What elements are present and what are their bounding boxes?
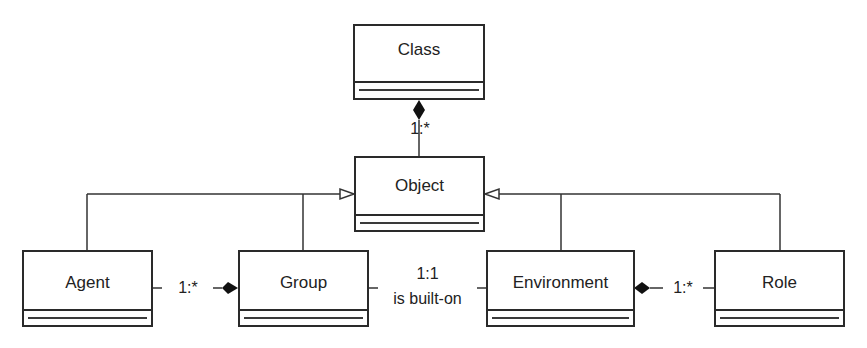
class-box-environment: Environment xyxy=(486,250,635,327)
agent-group-multiplicity: 1:* xyxy=(166,279,210,297)
class-box-class: Class xyxy=(353,24,485,100)
class-object-multiplicity: 1:* xyxy=(400,120,440,138)
environment-name: Environment xyxy=(488,273,633,293)
class-box-group: Group xyxy=(238,250,369,327)
environment-role-multiplicity: 1:* xyxy=(660,279,706,297)
role-name: Role xyxy=(716,273,843,293)
agent-name: Agent xyxy=(24,273,151,293)
class-box-role: Role xyxy=(714,250,845,327)
group-name: Group xyxy=(240,273,367,293)
composition-diamond-group xyxy=(222,282,238,294)
generalization-arrow-left xyxy=(340,189,354,199)
class-name: Class xyxy=(355,40,483,60)
group-environment-multiplicity: 1:1 xyxy=(380,265,475,283)
object-name: Object xyxy=(356,176,483,196)
composition-diamond-class xyxy=(413,100,425,120)
composition-diamond-environment xyxy=(634,282,650,294)
class-box-agent: Agent xyxy=(22,250,153,327)
class-box-object: Object xyxy=(354,156,485,232)
generalization-arrow-right xyxy=(485,189,499,199)
group-environment-label: is built-on xyxy=(375,290,480,308)
